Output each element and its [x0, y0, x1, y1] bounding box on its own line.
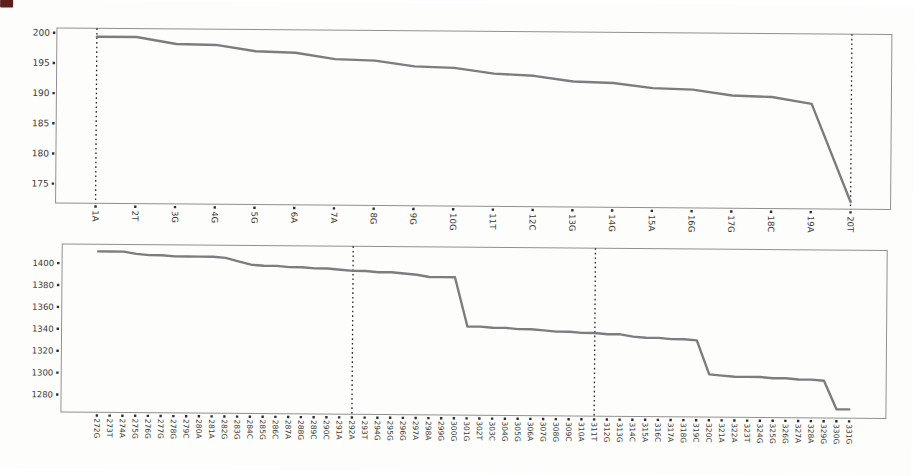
svg-text:319C: 319C	[691, 423, 700, 443]
svg-text:10G: 10G	[448, 213, 458, 230]
svg-text:293T: 293T	[360, 420, 369, 439]
svg-text:320C: 320C	[704, 423, 713, 443]
svg-text:330G: 330G	[832, 424, 841, 444]
svg-text:200: 200	[33, 28, 51, 38]
svg-text:308G: 308G	[551, 422, 560, 442]
svg-text:1300: 1300	[32, 367, 54, 377]
svg-text:276G: 276G	[143, 419, 152, 439]
svg-text:275G: 275G	[130, 419, 139, 439]
svg-text:1280: 1280	[31, 389, 53, 399]
svg-text:274A: 274A	[118, 418, 127, 438]
svg-text:20T: 20T	[845, 216, 855, 233]
svg-text:279C: 279C	[181, 419, 190, 439]
svg-text:16G: 16G	[686, 215, 696, 232]
svg-text:5G: 5G	[249, 211, 259, 223]
svg-text:310A: 310A	[577, 422, 586, 442]
svg-text:1320: 1320	[32, 345, 54, 355]
svg-text:323T: 323T	[742, 423, 751, 442]
svg-text:11T: 11T	[488, 213, 498, 230]
svg-text:1360: 1360	[32, 302, 54, 312]
top-line-chart-positions-1-20: 2001951901851801751A2T3G4G5G6A7A8G9G10G1…	[0, 0, 915, 239]
svg-text:305G: 305G	[513, 422, 522, 442]
svg-text:294G: 294G	[373, 420, 382, 440]
svg-text:311T: 311T	[589, 422, 598, 441]
svg-text:13G: 13G	[567, 214, 577, 231]
svg-text:12C: 12C	[527, 214, 537, 231]
svg-text:321A: 321A	[717, 423, 726, 443]
svg-text:1A: 1A	[90, 210, 100, 221]
svg-text:300G: 300G	[449, 421, 458, 441]
svg-text:185: 185	[32, 118, 49, 128]
svg-text:296G: 296G	[398, 421, 407, 441]
svg-text:1380: 1380	[32, 280, 54, 290]
svg-text:307G: 307G	[538, 422, 547, 442]
svg-text:299G: 299G	[436, 421, 445, 441]
svg-text:175: 175	[31, 178, 48, 188]
svg-text:272G: 272G	[92, 418, 101, 438]
svg-text:273T: 273T	[105, 418, 114, 437]
svg-text:17G: 17G	[726, 215, 736, 232]
svg-text:297A: 297A	[411, 421, 420, 441]
svg-text:6A: 6A	[289, 212, 299, 223]
svg-text:4G: 4G	[210, 211, 220, 223]
svg-text:314C: 314C	[628, 422, 637, 442]
svg-text:9G: 9G	[408, 213, 418, 225]
svg-text:302T: 302T	[475, 421, 484, 440]
svg-text:303C: 303C	[487, 421, 496, 441]
svg-text:278G: 278G	[169, 419, 178, 439]
svg-text:7A: 7A	[329, 212, 339, 223]
svg-text:18C: 18C	[766, 216, 776, 233]
svg-text:8G: 8G	[369, 212, 379, 224]
svg-text:306A: 306A	[526, 422, 535, 442]
svg-text:315A: 315A	[640, 423, 649, 443]
svg-text:301G: 301G	[462, 421, 471, 441]
svg-text:295G: 295G	[385, 421, 394, 441]
svg-text:280A: 280A	[194, 419, 203, 439]
sequence-position-line-charts-figure: 2001951901851801751A2T3G4G5G6A7A8G9G10G1…	[0, 0, 915, 476]
svg-text:19A: 19A	[806, 216, 816, 233]
svg-text:14G: 14G	[607, 214, 617, 231]
svg-text:190: 190	[32, 88, 50, 98]
svg-text:2T: 2T	[130, 211, 140, 222]
svg-text:304G: 304G	[500, 421, 509, 441]
svg-text:290C: 290C	[322, 420, 331, 440]
svg-text:313G: 313G	[615, 422, 624, 442]
svg-text:289C: 289C	[309, 420, 318, 440]
svg-text:282G: 282G	[220, 419, 229, 439]
svg-text:288G: 288G	[296, 420, 305, 440]
svg-text:324G: 324G	[755, 423, 764, 443]
svg-text:180: 180	[32, 148, 50, 158]
svg-text:1340: 1340	[32, 324, 54, 334]
svg-text:331G: 331G	[844, 424, 853, 444]
svg-text:291A: 291A	[334, 420, 343, 440]
svg-text:287A: 287A	[283, 420, 292, 440]
svg-text:317A: 317A	[666, 423, 675, 443]
svg-text:283G: 283G	[232, 419, 241, 439]
svg-text:1400: 1400	[32, 258, 54, 268]
svg-text:195: 195	[32, 58, 49, 68]
svg-text:15A: 15A	[647, 215, 657, 232]
svg-text:326G: 326G	[781, 424, 790, 444]
svg-text:3G: 3G	[170, 211, 180, 223]
svg-text:277G: 277G	[156, 419, 165, 439]
svg-text:318G: 318G	[679, 423, 688, 443]
svg-text:284C: 284C	[245, 419, 254, 439]
svg-text:285G: 285G	[258, 420, 267, 440]
svg-text:292A: 292A	[347, 420, 356, 440]
svg-text:298A: 298A	[424, 421, 433, 441]
svg-text:325G: 325G	[768, 424, 777, 444]
svg-text:327A: 327A	[793, 424, 802, 444]
svg-text:281A: 281A	[207, 419, 216, 439]
svg-text:322A: 322A	[730, 423, 739, 443]
svg-text:286C: 286C	[271, 420, 280, 440]
bottom-line-chart-positions-272-331: 1400138013601340132013001280272G273T274A…	[0, 232, 913, 476]
svg-text:316C: 316C	[653, 423, 662, 443]
svg-text:312G: 312G	[602, 422, 611, 442]
svg-text:328A: 328A	[806, 424, 815, 444]
svg-text:309C: 309C	[564, 422, 573, 442]
svg-text:329G: 329G	[819, 424, 828, 444]
